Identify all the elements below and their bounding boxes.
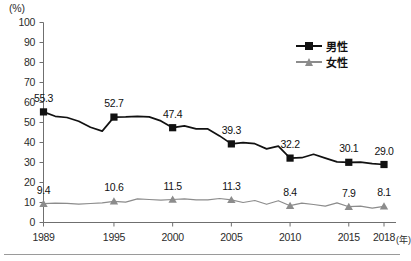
data-point-label: 32.2	[273, 138, 307, 150]
data-point-label: 8.4	[273, 186, 307, 198]
data-point-marker	[345, 159, 352, 166]
y-tick-label: 30	[5, 156, 35, 168]
bottom-divider	[4, 254, 400, 255]
data-point-label: 11.3	[214, 180, 248, 192]
y-tick-label: 100	[5, 16, 35, 28]
y-tick-label: 70	[5, 76, 35, 88]
data-point-label: 30.1	[332, 142, 366, 154]
data-point-label: 10.6	[97, 181, 131, 193]
data-point-label: 11.5	[156, 180, 190, 192]
legend-item-male: 男性	[296, 38, 348, 54]
series-line-female	[44, 199, 385, 209]
data-point-label: 55.3	[27, 92, 61, 104]
y-tick-label: 0	[5, 216, 35, 228]
x-tick-label: 2010	[270, 231, 310, 243]
chart-legend: 男性 女性	[296, 38, 348, 70]
data-point-marker	[169, 124, 176, 131]
data-point-marker	[380, 161, 387, 168]
triangle-marker-icon	[305, 58, 313, 66]
y-tick-label: 90	[5, 36, 35, 48]
data-point-marker	[40, 108, 47, 115]
data-point-marker	[110, 114, 117, 121]
data-point-marker	[380, 202, 388, 209]
y-tick-label: 80	[5, 56, 35, 68]
series-line-male	[44, 112, 385, 165]
legend-label-male: 男性	[326, 38, 348, 54]
legend-swatch-male	[296, 40, 322, 52]
data-point-label: 52.7	[97, 97, 131, 109]
x-tick-label: 2015	[329, 231, 369, 243]
data-point-marker	[228, 140, 235, 147]
data-point-label: 39.3	[214, 124, 248, 136]
y-tick-label: 40	[5, 136, 35, 148]
y-tick-label: 50	[5, 116, 35, 128]
x-tick-label: 1989	[24, 231, 64, 243]
data-point-label: 47.4	[156, 108, 190, 120]
legend-swatch-female	[296, 56, 322, 68]
y-tick-label: 10	[5, 196, 35, 208]
legend-label-female: 女性	[326, 54, 348, 70]
data-point-label: 9.4	[27, 184, 61, 196]
square-marker-icon	[305, 42, 313, 50]
x-axis-unit-label: (年)	[396, 233, 411, 246]
y-axis-unit-label: (%)	[9, 2, 25, 14]
x-tick-label: 2000	[153, 231, 193, 243]
data-point-label: 7.9	[332, 187, 366, 199]
legend-item-female: 女性	[296, 54, 348, 70]
data-point-label: 29.0	[367, 145, 401, 157]
x-tick-label: 1995	[94, 231, 134, 243]
x-tick-label: 2005	[211, 231, 251, 243]
data-point-marker	[286, 155, 293, 162]
data-point-label: 8.1	[367, 186, 401, 198]
